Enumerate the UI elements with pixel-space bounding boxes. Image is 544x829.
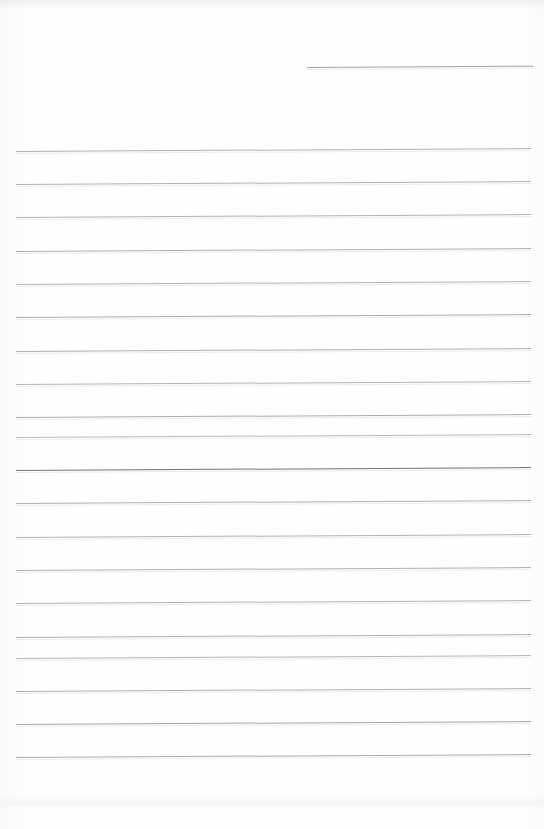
rule-13	[16, 534, 531, 538]
rule-14	[16, 567, 531, 571]
header-rule	[307, 66, 533, 68]
rule-16	[16, 634, 531, 638]
rule-7	[16, 348, 531, 352]
rule-5	[16, 281, 531, 285]
rule-17	[16, 655, 531, 659]
rule-6	[16, 314, 531, 318]
rule-19	[16, 721, 531, 725]
rule-18	[16, 688, 531, 692]
rule-3	[16, 214, 531, 218]
rule-10	[16, 434, 531, 438]
rule-12	[16, 500, 531, 504]
scan-edge-artifact	[0, 796, 544, 810]
rule-1	[16, 148, 531, 152]
rule-11-bold	[16, 467, 531, 471]
rule-4	[16, 248, 531, 252]
rule-2	[16, 181, 531, 185]
rule-20	[16, 754, 531, 758]
rule-15	[16, 600, 531, 604]
rule-9	[16, 414, 531, 418]
scanned-page	[0, 0, 544, 829]
rule-8	[16, 381, 531, 385]
